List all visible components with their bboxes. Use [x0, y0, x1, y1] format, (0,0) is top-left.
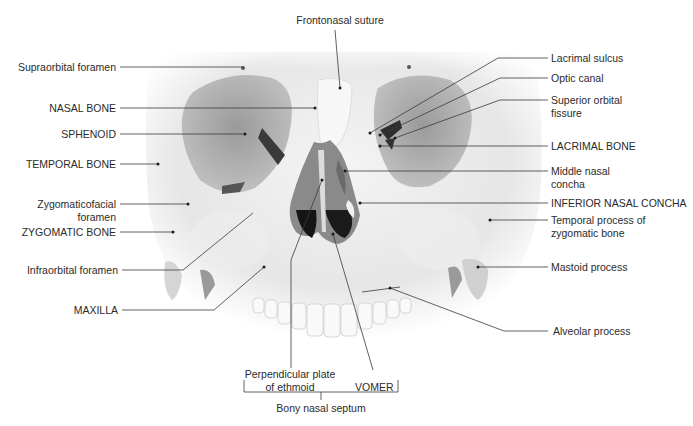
label-superior-orbital-fissure: Superior orbital fissure [551, 94, 622, 120]
label-nasal-bone: NASAL BONE [0, 102, 116, 115]
label-line2: fissure [551, 107, 622, 120]
label-line1: Temporal process of [551, 214, 646, 227]
label-line2: concha [551, 178, 610, 191]
label-supraorbital-foramen: Supraorbital foramen [0, 61, 116, 74]
label-middle-nasal-concha: Middle nasal concha [551, 165, 610, 191]
label-lacrimal-sulcus: Lacrimal sulcus [551, 52, 623, 65]
label-zygomatic-bone: ZYGOMATIC BONE [0, 226, 116, 239]
label-line1: Middle nasal [551, 165, 610, 178]
label-vomer: VOMER [355, 381, 394, 394]
label-optic-canal: Optic canal [551, 72, 604, 85]
label-line2: zygomatic bone [551, 227, 646, 240]
label-infraorbital-foramen: Infraorbital foramen [0, 264, 118, 277]
label-zygomaticofacial-foramen: Zygomaticofacial foramen [0, 198, 116, 224]
label-line2: foramen [0, 211, 116, 224]
label-perpendicular-plate: Perpendicular plate of ethmoid [240, 368, 340, 394]
label-alveolar-process: Alveolar process [553, 325, 631, 338]
label-lacrimal-bone: LACRIMAL BONE [551, 140, 636, 153]
label-line1: Superior orbital [551, 94, 622, 107]
label-line2: of ethmoid [240, 381, 340, 394]
label-temporal-bone: TEMPORAL BONE [0, 158, 116, 171]
label-sphenoid: SPHENOID [0, 128, 116, 141]
label-mastoid-process: Mastoid process [551, 261, 627, 274]
label-line1: Zygomaticofacial [0, 198, 116, 211]
label-maxilla: MAXILLA [0, 304, 118, 317]
skull-shape [140, 40, 550, 340]
label-frontonasal-suture: Frontonasal suture [290, 14, 390, 27]
label-temporal-process: Temporal process of zygomatic bone [551, 214, 646, 240]
label-line1: Perpendicular plate [240, 368, 340, 381]
label-inferior-nasal-concha: INFERIOR NASAL CONCHA [551, 197, 687, 210]
label-bony-nasal-septum: Bony nasal septum [271, 402, 371, 415]
skull-anterior-diagram: Frontonasal suture Supraorbital foramen … [0, 0, 693, 426]
